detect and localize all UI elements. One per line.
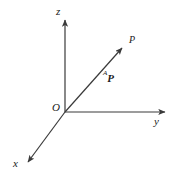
point-p-label: P (129, 35, 135, 45)
origin-label: O (52, 102, 60, 113)
x-axis-label: x (13, 158, 18, 169)
x-axis-line (28, 112, 65, 162)
coordinate-frame-diagram: z y x O P AP (0, 0, 180, 182)
vector-frame-superscript: A (103, 69, 107, 77)
diagram-canvas (0, 0, 180, 182)
position-vector-label: AP (103, 69, 114, 85)
vector-name: P (107, 72, 114, 84)
y-axis-label: y (154, 116, 159, 127)
z-axis-label: z (56, 6, 60, 17)
